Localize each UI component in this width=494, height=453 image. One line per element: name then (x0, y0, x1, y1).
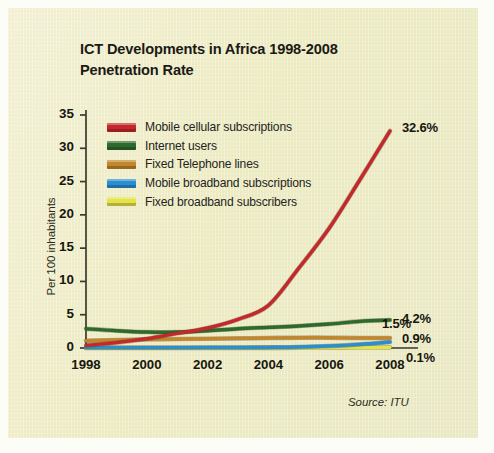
y-tick-label: 30 (40, 139, 74, 154)
legend-item-label: Fixed Telephone lines (145, 157, 259, 171)
legend-item[interactable]: Fixed Telephone lines (107, 155, 311, 174)
legend-item-label: Mobile cellular subscriptions (145, 120, 292, 134)
legend-item[interactable]: Mobile broadband subscriptions (107, 174, 311, 193)
series-end-label: 32.6% (402, 120, 438, 135)
chart-legend: Mobile cellular subscriptionsInternet us… (107, 118, 311, 211)
legend-color-swatch (107, 141, 136, 150)
series-end-label: 0.9% (402, 331, 431, 346)
legend-item[interactable]: Internet users (107, 137, 311, 156)
y-tick-label: 20 (40, 206, 74, 221)
legend-item[interactable]: Mobile cellular subscriptions (107, 118, 311, 137)
legend-color-swatch (107, 197, 136, 206)
legend-item-label: Internet users (145, 139, 217, 153)
chart-figure: ICT Developments in Africa 1998-2008 Pen… (8, 8, 478, 438)
y-tick-label: 15 (40, 239, 74, 254)
x-tick-label: 1998 (56, 357, 116, 372)
x-tick-label: 2006 (299, 357, 359, 372)
y-tick-label: 10 (40, 272, 74, 287)
plot-area (8, 8, 478, 438)
legend-color-swatch (107, 160, 136, 169)
y-tick-label: 25 (40, 173, 74, 188)
series-end-label: 0.1% (406, 350, 435, 365)
y-tick-label: 0 (40, 339, 74, 354)
source-note: Source: ITU (348, 396, 409, 408)
x-tick-label: 2002 (178, 357, 238, 372)
legend-item-label: Mobile broadband subscriptions (145, 176, 311, 190)
y-tick-label: 35 (40, 106, 74, 121)
legend-item[interactable]: Fixed broadband subscribers (107, 192, 311, 211)
series-end-label: 1.5% (382, 316, 411, 331)
legend-color-swatch (107, 179, 136, 188)
x-tick-label: 2004 (238, 357, 298, 372)
x-tick-label: 2000 (117, 357, 177, 372)
y-tick-label: 5 (40, 306, 74, 321)
legend-item-label: Fixed broadband subscribers (145, 195, 297, 209)
legend-color-swatch (107, 123, 136, 132)
